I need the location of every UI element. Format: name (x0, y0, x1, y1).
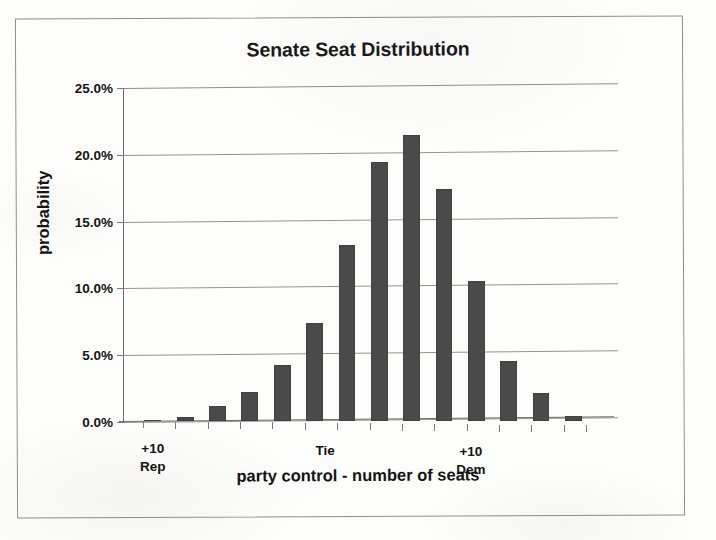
bar (241, 392, 258, 421)
x-tick-mark (531, 425, 532, 432)
chart-title: Senate Seat Distribution (0, 36, 716, 63)
x-tick-mark (337, 423, 338, 430)
y-tick-label: 5.0% (82, 348, 113, 363)
x-tick-mark (240, 422, 241, 429)
bar (565, 416, 582, 421)
x-tick-mark (208, 422, 209, 429)
x-tick-mark (402, 424, 403, 431)
x-category-label: Tie (316, 442, 335, 460)
y-tick-label: 20.0% (75, 147, 113, 162)
x-tick-mark (143, 421, 144, 428)
bar (500, 361, 517, 421)
bar (144, 420, 161, 422)
bar (339, 245, 356, 421)
bar (468, 281, 485, 421)
y-tick-label: 10.0% (75, 281, 113, 296)
bar (274, 365, 291, 421)
bar (306, 323, 323, 421)
y-tick-label: 25.0% (75, 81, 113, 96)
gridline (121, 350, 618, 356)
x-tick-mark (586, 425, 587, 432)
x-tick-mark (305, 423, 306, 430)
y-axis-line (123, 88, 124, 422)
y-tick-mark (117, 422, 124, 423)
y-tick-mark (117, 288, 124, 289)
bar (403, 135, 420, 421)
y-tick-label: 0.0% (82, 415, 113, 430)
y-axis-title: probability (34, 171, 53, 255)
bar (371, 162, 388, 421)
y-tick-mark (117, 155, 124, 156)
bar (177, 417, 194, 421)
bar (436, 189, 453, 421)
gridline (121, 217, 618, 223)
x-tick-mark (564, 425, 565, 432)
gridline (121, 284, 618, 290)
bar (533, 393, 550, 421)
y-tick-mark (117, 88, 124, 89)
x-tick-mark (370, 423, 371, 430)
x-tick-mark (499, 425, 500, 432)
x-tick-mark (467, 424, 468, 431)
scanned-page: Senate Seat Distribution probability 0.0… (0, 0, 716, 540)
x-tick-mark (175, 422, 176, 429)
x-tick-mark (434, 424, 435, 431)
bar (209, 406, 226, 421)
y-tick-mark (117, 355, 124, 356)
y-tick-label: 15.0% (75, 214, 113, 229)
y-tick-mark (117, 222, 124, 223)
x-axis-title: party control - number of seats (0, 464, 716, 487)
plot-area: 0.0%5.0%10.0%15.0%20.0%25.0% +10 RepTie+… (123, 88, 610, 422)
gridline (121, 150, 618, 156)
x-tick-mark (272, 422, 273, 429)
